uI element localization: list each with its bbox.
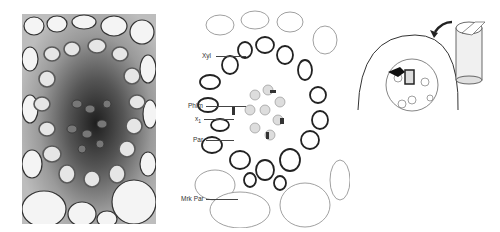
- stem-orientation-image: [350, 0, 500, 115]
- label-marrow-parenchyma: Mrk Par: [181, 195, 204, 202]
- label-parenchyma: Par: [193, 136, 203, 143]
- label-phloem: Phlm: [188, 102, 203, 109]
- leader-line: [206, 140, 234, 141]
- label-xylem: Xyl: [202, 52, 211, 59]
- leader-line: [204, 119, 234, 120]
- curved-arrow-icon: [435, 22, 452, 32]
- leader-line: [206, 106, 246, 107]
- leader-line: [216, 56, 246, 57]
- orientation-diagram: [350, 0, 500, 115]
- micrograph-panel: [22, 14, 156, 224]
- label-x1: x1: [195, 115, 201, 124]
- leader-line: [206, 199, 238, 200]
- micrograph-image: [22, 14, 156, 224]
